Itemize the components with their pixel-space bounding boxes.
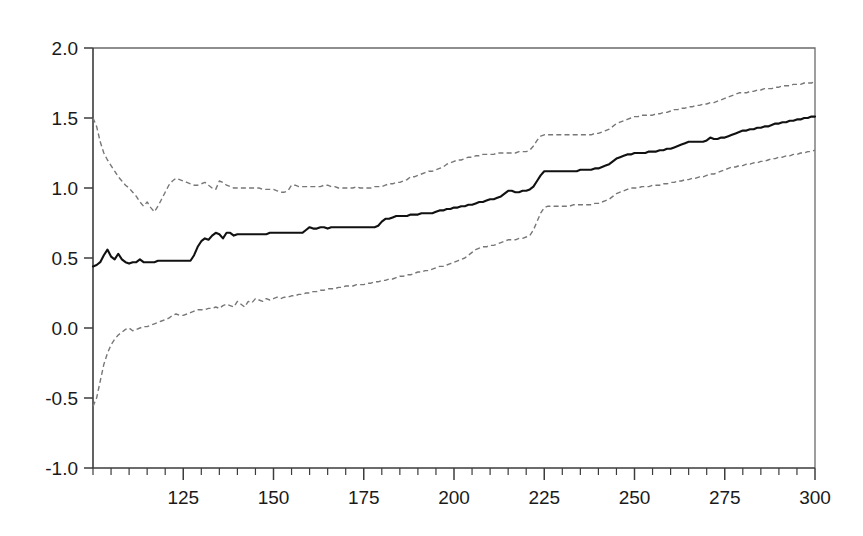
axis-lines xyxy=(93,48,815,468)
y-tick-label: 1.5 xyxy=(52,108,78,129)
data-series-group xyxy=(93,82,815,407)
chart-figure: -1.0-0.50.00.51.01.52.0 1251501752002252… xyxy=(0,0,863,536)
y-tick-label: -1.0 xyxy=(45,458,78,479)
line-chart: -1.0-0.50.00.51.01.52.0 1251501752002252… xyxy=(0,0,863,536)
y-tick-label: 0.0 xyxy=(52,318,78,339)
y-tick-label: 0.5 xyxy=(52,248,78,269)
x-tick-label: 125 xyxy=(167,487,199,508)
x-tick-label: 275 xyxy=(709,487,741,508)
x-tick-label: 250 xyxy=(619,487,651,508)
y-axis-ticks xyxy=(84,48,93,468)
x-tick-label: 200 xyxy=(438,487,470,508)
x-tick-label: 175 xyxy=(348,487,380,508)
plot-border xyxy=(93,48,815,468)
y-tick-label: -0.5 xyxy=(45,388,78,409)
y-axis-tick-labels: -1.0-0.50.00.51.01.52.0 xyxy=(45,38,78,479)
x-axis-tick-labels: 125150175200225250275300 xyxy=(167,487,830,508)
series-confidence-band xyxy=(93,82,815,212)
y-tick-label: 1.0 xyxy=(52,178,78,199)
x-tick-label: 225 xyxy=(528,487,560,508)
x-tick-label: 150 xyxy=(258,487,290,508)
y-tick-label: 2.0 xyxy=(52,38,78,59)
series-confidence-band xyxy=(93,150,815,406)
x-tick-label: 300 xyxy=(799,487,831,508)
plot-frame xyxy=(93,48,815,468)
series-point-estimate xyxy=(93,117,815,267)
x-axis-ticks xyxy=(93,468,815,480)
